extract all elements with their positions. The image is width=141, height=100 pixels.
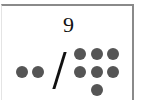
dot-icon (91, 66, 103, 78)
dot-icon (74, 48, 86, 60)
dot-icon (91, 84, 103, 96)
target-number: 9 (2, 14, 135, 36)
dot-icon (107, 48, 119, 60)
dot-icon (32, 66, 44, 78)
dot-icon (16, 66, 28, 78)
slash-separator-icon (52, 52, 66, 89)
dot-icon (74, 66, 86, 78)
number-card: 9 (1, 4, 134, 100)
dot-icon (91, 48, 103, 60)
dot-icon (107, 66, 119, 78)
